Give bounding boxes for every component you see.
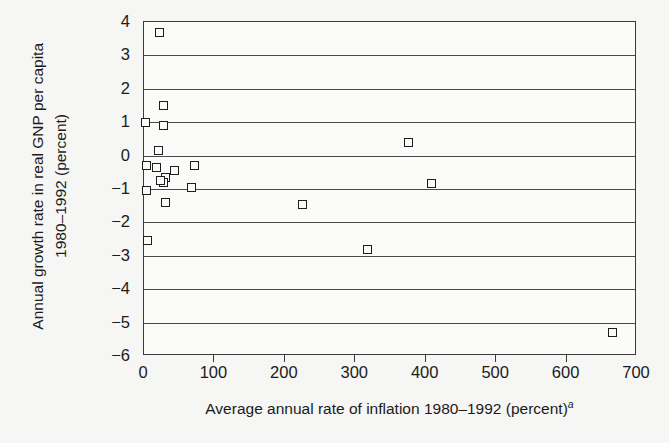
y-tick-label: −3: [111, 245, 130, 264]
data-point: [143, 236, 152, 245]
data-point: [142, 161, 151, 170]
x-axis-title-text: Average annual rate of inflation 1980–19…: [205, 400, 568, 417]
x-tick-label: 400: [411, 363, 439, 382]
gridline-y: [144, 323, 635, 324]
gridline-y: [144, 189, 635, 190]
gridline-y: [144, 122, 635, 123]
x-tick-label: 300: [341, 363, 369, 382]
x-tick-mark: [354, 355, 355, 362]
x-tick-mark: [566, 355, 567, 362]
y-tick-label: 3: [121, 45, 130, 64]
gridline-y: [144, 55, 635, 56]
data-point: [142, 186, 151, 195]
x-tick-mark: [213, 355, 214, 362]
y-axis-title-line-2: 1980–1992 (percent): [53, 114, 69, 258]
y-tick-label: 4: [121, 12, 130, 31]
x-axis-title-footnote-marker: a: [568, 398, 574, 410]
y-tick-label: 1: [121, 112, 130, 131]
data-point: [159, 101, 168, 110]
gridline-y: [144, 256, 635, 257]
y-tick-label: −4: [111, 279, 130, 298]
y-tick-label: −1: [111, 179, 130, 198]
x-tick-label: 500: [481, 363, 509, 382]
data-point: [152, 163, 161, 172]
gridline-y: [144, 89, 635, 90]
data-point: [170, 166, 179, 175]
data-point: [187, 183, 196, 192]
data-point: [190, 161, 199, 170]
gridline-y: [144, 222, 635, 223]
data-point: [141, 118, 150, 127]
y-tick-label: −2: [111, 212, 130, 231]
data-point: [404, 138, 413, 147]
y-axis-title: Annual growth rate in real GNP per capit…: [0, 0, 96, 372]
x-axis-tick-labels: 0100200300400500600700: [143, 355, 636, 389]
data-point: [608, 328, 617, 337]
x-tick-label: 600: [552, 363, 580, 382]
x-tick-mark: [495, 355, 496, 362]
y-tick-label: 2: [121, 78, 130, 97]
x-tick-label: 0: [138, 363, 147, 382]
data-point: [154, 146, 163, 155]
y-axis-tick-labels: 43210−1−2−3−4−5−6: [96, 21, 136, 355]
gridline-y: [144, 156, 635, 157]
data-point: [427, 179, 436, 188]
data-point: [159, 121, 168, 130]
gridline-y: [144, 289, 635, 290]
y-axis-title-line-1: Annual growth rate in real GNP per capit…: [30, 43, 46, 330]
data-point: [363, 245, 372, 254]
plot-area: [143, 21, 636, 355]
y-tick-label: −5: [111, 312, 130, 331]
x-tick-label: 700: [622, 363, 650, 382]
data-point: [155, 28, 164, 37]
x-axis-title: Average annual rate of inflation 1980–19…: [143, 398, 636, 418]
x-tick-label: 200: [270, 363, 298, 382]
data-point: [161, 198, 170, 207]
data-point: [298, 200, 307, 209]
x-tick-mark: [425, 355, 426, 362]
data-point: [156, 176, 165, 185]
y-tick-label: −6: [111, 346, 130, 365]
chart-figure: Annual growth rate in real GNP per capit…: [0, 0, 669, 443]
y-tick-label: 0: [121, 145, 130, 164]
x-tick-label: 100: [200, 363, 228, 382]
x-tick-mark: [284, 355, 285, 362]
